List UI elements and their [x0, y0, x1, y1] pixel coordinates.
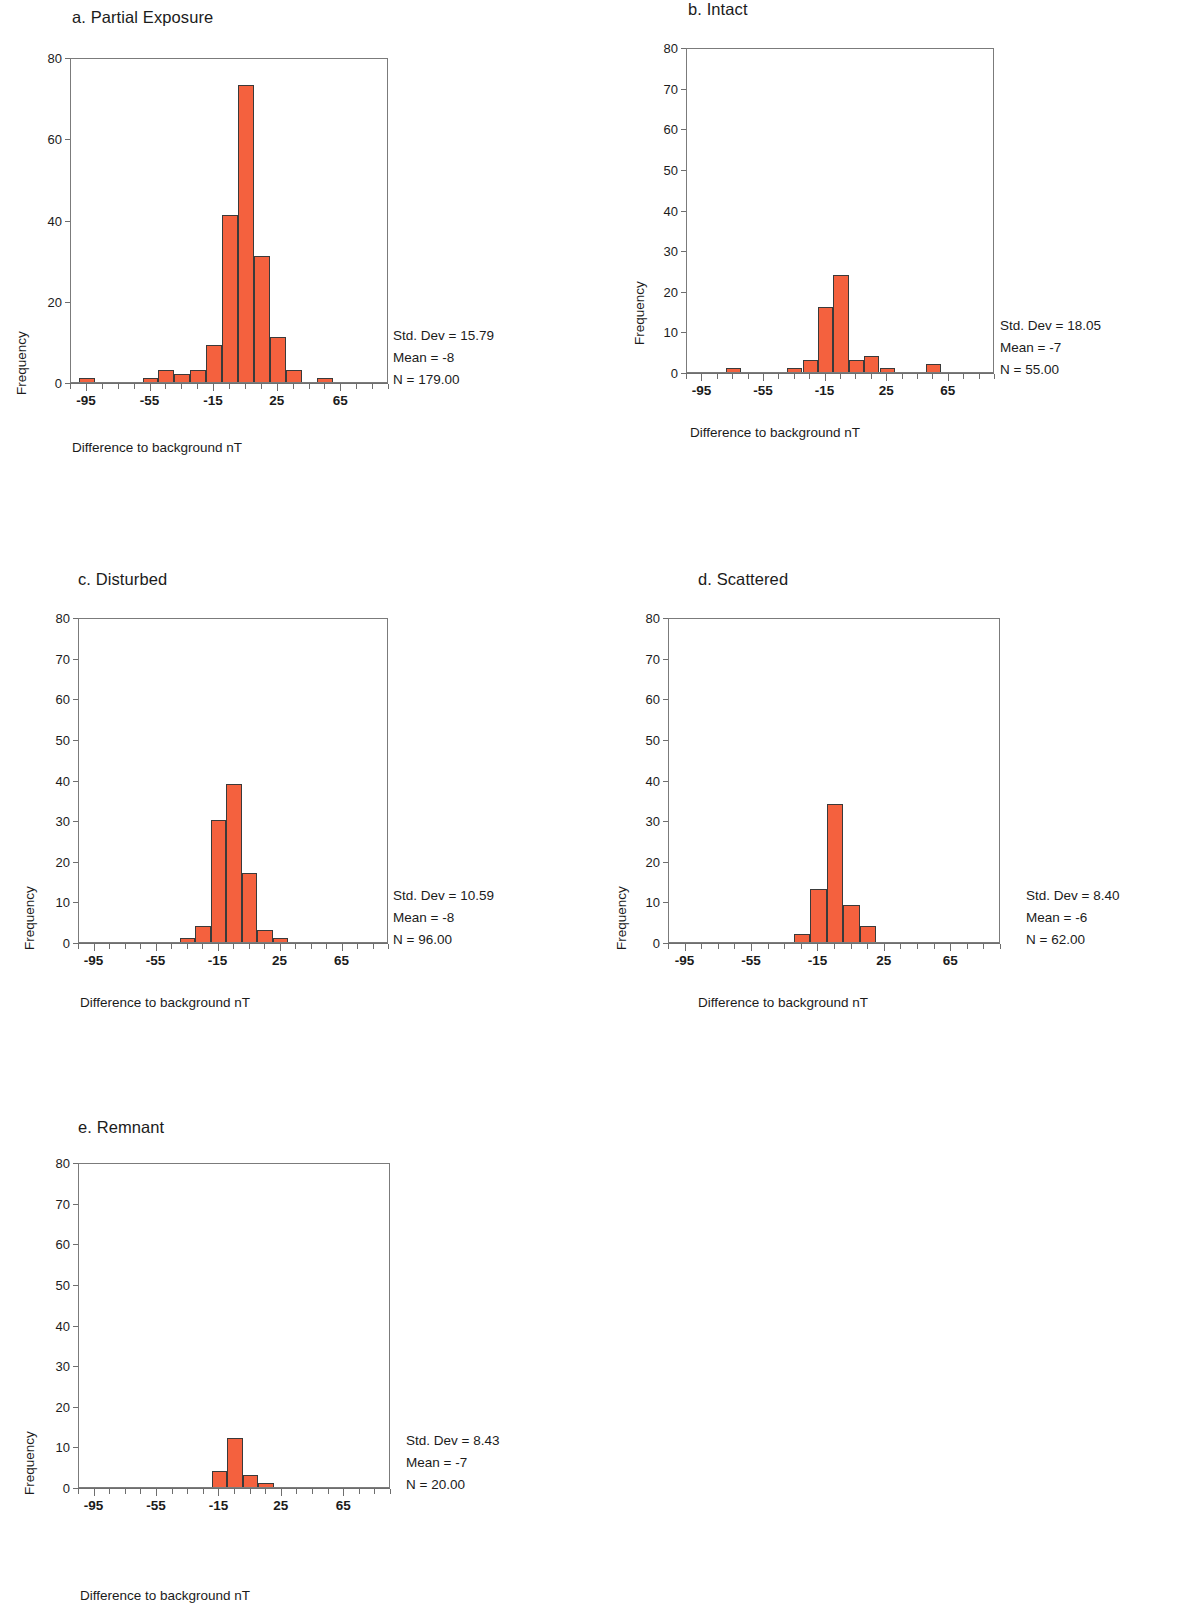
- stats-line: Mean = -6: [1026, 907, 1119, 929]
- y-axis-d: 01020304050607080: [668, 618, 669, 943]
- bar: [79, 378, 95, 382]
- stats-annotation-b: Std. Dev = 18.05Mean = -7N = 55.00: [1000, 315, 1101, 381]
- x-tick: [109, 944, 110, 949]
- x-tick-label: 65: [336, 1499, 351, 1513]
- x-tick-label: -15: [808, 954, 828, 968]
- x-tick: [277, 384, 278, 391]
- stats-line: Mean = -7: [1000, 337, 1101, 359]
- x-tick: [834, 944, 835, 949]
- plot-area-e: [78, 1163, 390, 1488]
- x-tick: [140, 944, 141, 949]
- x-tick: [373, 944, 374, 949]
- x-tick-label: 25: [269, 394, 284, 408]
- y-tick: [663, 699, 668, 700]
- x-tick: [357, 944, 358, 949]
- bar: [926, 364, 941, 372]
- x-tick: [751, 944, 752, 951]
- x-tick: [372, 384, 373, 389]
- stats-line: Std. Dev = 8.40: [1026, 885, 1119, 907]
- x-tick: [261, 384, 262, 389]
- bar: [860, 926, 877, 942]
- stats-line: Std. Dev = 15.79: [393, 325, 494, 347]
- x-axis-title-c: Difference to background nT: [80, 995, 250, 1010]
- x-tick: [187, 1489, 188, 1494]
- plot-area-a: [70, 58, 388, 383]
- y-tick: [681, 48, 686, 49]
- x-tick: [181, 384, 182, 389]
- stats-line: Std. Dev = 18.05: [1000, 315, 1101, 337]
- chart-title-d: d. Scattered: [698, 570, 788, 589]
- x-tick: [134, 384, 135, 389]
- y-tick-label: 80: [56, 612, 70, 625]
- x-tick: [265, 1489, 266, 1494]
- bar: [180, 938, 196, 942]
- x-tick: [326, 944, 327, 949]
- y-tick: [73, 1407, 78, 1408]
- x-tick-label: 25: [272, 954, 287, 968]
- stats-annotation-d: Std. Dev = 8.40Mean = -6N = 62.00: [1026, 885, 1119, 951]
- y-tick-label: 80: [646, 612, 660, 625]
- x-tick: [390, 1489, 391, 1494]
- x-tick: [817, 944, 818, 951]
- bars-layer-c: [79, 619, 387, 942]
- bar: [726, 368, 741, 372]
- bar: [818, 307, 833, 372]
- stats-line: N = 179.00: [393, 369, 494, 391]
- y-tick-label: 10: [646, 896, 660, 909]
- x-tick: [311, 944, 312, 949]
- x-tick: [202, 944, 203, 949]
- x-tick: [900, 944, 901, 949]
- x-tick-label: -15: [208, 954, 228, 968]
- y-tick-label: 10: [56, 1441, 70, 1454]
- x-tick: [884, 944, 885, 951]
- x-axis-title-b: Difference to background nT: [690, 425, 860, 440]
- x-tick: [855, 374, 856, 379]
- y-tick-label: 40: [56, 774, 70, 787]
- x-tick-label: 65: [333, 394, 348, 408]
- x-tick: [701, 944, 702, 949]
- bar: [286, 370, 302, 382]
- x-tick: [851, 944, 852, 949]
- y-tick-label: 10: [56, 896, 70, 909]
- y-tick: [681, 129, 686, 130]
- x-tick: [264, 944, 265, 949]
- y-tick-label: 0: [63, 937, 70, 950]
- y-tick-label: 30: [56, 1360, 70, 1373]
- y-tick: [663, 618, 668, 619]
- bar: [270, 337, 286, 382]
- x-axis-title-a: Difference to background nT: [72, 440, 242, 455]
- x-tick: [701, 374, 702, 381]
- x-tick: [78, 1489, 79, 1494]
- bar: [226, 784, 242, 942]
- x-tick: [809, 374, 810, 379]
- bar: [864, 356, 879, 372]
- x-tick: [668, 944, 669, 949]
- plot-area-c: [78, 618, 388, 943]
- stats-annotation-c: Std. Dev = 10.59Mean = -8N = 96.00: [393, 885, 494, 951]
- x-tick-label: 65: [943, 954, 958, 968]
- y-tick: [73, 699, 78, 700]
- x-tick: [234, 1489, 235, 1494]
- x-tick: [950, 944, 951, 951]
- y-tick-label: 50: [56, 1278, 70, 1291]
- y-tick-label: 40: [56, 1319, 70, 1332]
- stats-line: Std. Dev = 10.59: [393, 885, 494, 907]
- x-tick: [125, 1489, 126, 1494]
- bar: [254, 256, 270, 382]
- y-tick-label: 70: [56, 652, 70, 665]
- y-tick-label: 20: [646, 855, 660, 868]
- y-tick-label: 50: [664, 163, 678, 176]
- x-tick: [388, 944, 389, 949]
- x-tick: [78, 944, 79, 949]
- x-tick: [932, 374, 933, 379]
- y-tick-label: 30: [646, 815, 660, 828]
- x-tick: [70, 384, 71, 389]
- y-tick: [73, 1326, 78, 1327]
- x-tick: [374, 1489, 375, 1494]
- bar: [174, 374, 190, 382]
- x-tick: [218, 1489, 219, 1496]
- y-tick: [681, 251, 686, 252]
- x-tick: [917, 374, 918, 379]
- y-tick-label: 0: [55, 377, 62, 390]
- y-axis-title-d: Frequency: [614, 886, 629, 950]
